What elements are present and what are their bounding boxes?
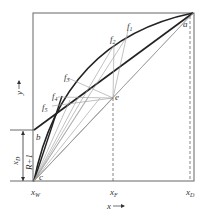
label-c: c (39, 172, 43, 182)
label-b: b (36, 132, 41, 142)
label-f3: f3 (64, 72, 70, 83)
fraction-label: xD (10, 156, 21, 166)
y-axis-label-group: y (14, 80, 24, 96)
arrow-up-icon (21, 131, 25, 135)
label-f2: f2 (110, 34, 116, 45)
label-f1: f1 (127, 21, 133, 32)
arrow-down-icon (21, 177, 25, 181)
y-axis-label: y (14, 91, 24, 96)
arrow-right-icon (121, 204, 125, 208)
label-f5: f5 (42, 102, 48, 113)
fraction-denominator: R+1 (24, 154, 34, 171)
svg-text:xD: xD (10, 156, 21, 166)
svg-text:R+1: R+1 (24, 154, 34, 171)
diagram-canvas: a b c e f1 f2 f3 f4 f5 xW xF xD x y xD R… (0, 0, 207, 217)
label-f4: f4 (52, 91, 58, 102)
tick-xF: xF (109, 187, 118, 198)
arrow-up-icon (17, 80, 21, 84)
x-axis-label: x (106, 201, 111, 211)
label-a: a (183, 19, 188, 29)
tick-xW: xW (30, 187, 41, 198)
label-e: e (115, 92, 119, 102)
tick-xD: xD (185, 187, 195, 198)
